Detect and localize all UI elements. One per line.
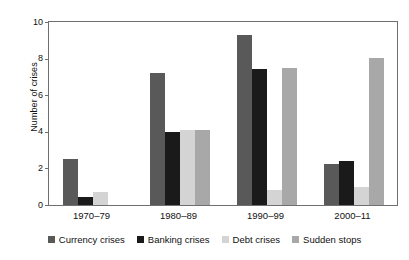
legend-item: Sudden stops [292,234,361,245]
x-axis-tick-label: 1980–89 [144,210,214,221]
bar [180,130,195,205]
legend-item-label: Banking crises [148,234,210,245]
y-axis-tick-label: 10 [21,18,43,27]
y-axis-tick-label: 8 [21,54,43,63]
bar [339,161,354,205]
legend-item: Currency crises [48,234,125,245]
bar-group [310,22,397,205]
bar-group-bars [63,22,123,205]
legend-swatch-icon [222,236,229,243]
bar-group-bars [237,22,297,205]
y-axis-tick-label: 2 [21,164,43,173]
bar [63,159,78,205]
bar [369,58,384,205]
legend-swatch-icon [137,236,144,243]
y-axis-tick-mark [45,205,49,206]
bar [237,35,252,205]
bar-group [49,22,136,205]
bar [252,69,267,205]
y-axis-tick-label: 0 [21,201,43,210]
bar [354,187,369,205]
bar [324,164,339,205]
legend-item: Debt crises [222,234,281,245]
bar [93,192,108,205]
bar-group [136,22,223,205]
legend-item-label: Currency crises [59,234,125,245]
bar [267,190,282,205]
bar [78,197,93,205]
x-axis-tick-label: 1970–79 [57,210,127,221]
legend-swatch-icon [292,236,299,243]
bar-group-bars [324,22,384,205]
x-axis-tick-label: 2000–11 [318,210,388,221]
x-axis-tick-label: 1990–99 [231,210,301,221]
chart-legend: Currency crisesBanking crisesDebt crises… [0,234,409,245]
bar [195,130,210,205]
bar [150,73,165,205]
bar [165,132,180,205]
bar-chart-figure: Number of crises 0246810 1970–791980–891… [0,0,409,260]
bar-group-bars [150,22,210,205]
plot-area: 0246810 [48,21,398,206]
plot-inner: 0246810 [49,22,397,205]
y-axis-tick-label: 4 [21,127,43,136]
bar [282,68,297,205]
bar-group [223,22,310,205]
legend-item-label: Debt crises [233,234,281,245]
y-axis-tick-label: 6 [21,91,43,100]
legend-item-label: Sudden stops [303,234,361,245]
legend-item: Banking crises [137,234,210,245]
legend-swatch-icon [48,236,55,243]
